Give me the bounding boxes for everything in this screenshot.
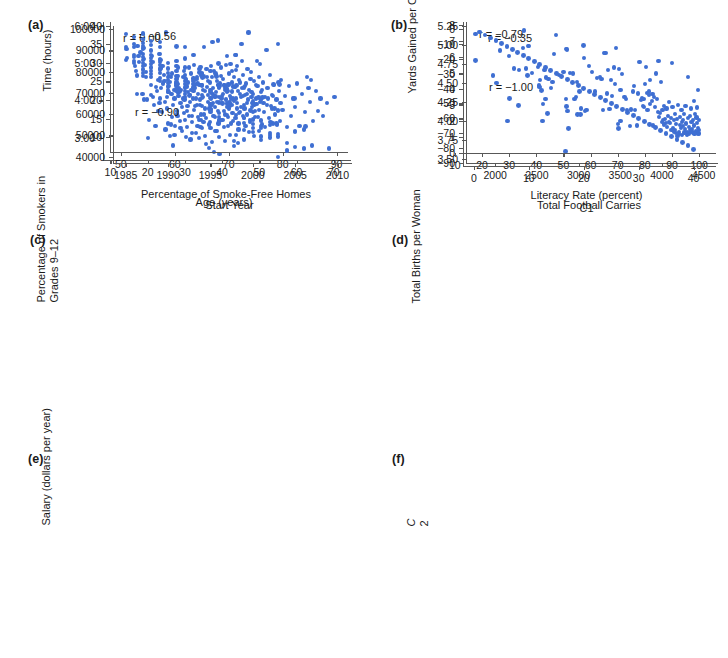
data-point [141,74,145,78]
y-tick-f-9 [459,163,463,164]
data-point [293,130,297,134]
data-point [149,75,153,79]
y-ticklabel-f-0: 0 [449,24,455,35]
y-ticklabel-e-0: 40000 [76,151,105,162]
data-point [526,56,531,61]
data-point [675,137,680,142]
x-ticklabel-f-2: 20 [578,173,590,184]
x-ticklabel-f-1: 10 [523,173,535,184]
data-point [488,36,493,41]
data-point [135,44,139,48]
data-point [680,140,685,145]
data-point [234,113,238,117]
x-tick-e-5 [338,163,339,167]
data-point [242,121,246,125]
data-point [174,89,178,93]
x-tick-a-0 [110,160,111,164]
data-point [548,68,553,73]
y-tick-f-3 [459,74,463,75]
data-point [174,59,178,63]
data-point [208,108,212,112]
scatterplot-figure: (a)102030405060703:004:005:006:00Age (ye… [0,0,728,658]
x-tick-f-3 [639,166,640,170]
x-tick-f-4 [694,166,695,170]
data-point [625,110,630,115]
data-point [175,76,179,80]
y-tick-e-1 [109,135,113,136]
y-ticklabel-e-5: 90000 [76,45,105,56]
panel-d: (d)102030405060708090100012345678Literac… [364,215,728,434]
data-point [532,59,537,64]
x-axis-title-f: C1 [579,202,593,215]
data-point [217,118,221,122]
data-point [268,135,272,139]
y-tick-f-2 [459,59,463,60]
data-point [166,61,170,65]
x-axis-title-e: Start Year [205,199,253,212]
data-point [521,53,526,58]
data-point [302,127,306,131]
x-ticklabel-e-3: 2000 [241,170,264,181]
data-point [276,109,280,113]
x-ticklabel-b-0: 2000 [483,170,506,181]
y-tick-f-6 [459,118,463,119]
y-ticklabel-f-6: −60 [437,113,455,124]
data-point [554,71,559,76]
y-axis-title-line: Yards Gained per Carry [406,93,419,94]
data-point [251,122,255,126]
panel-e: (e)1985199019952000200520104000050000600… [0,430,364,649]
y-axis-title-b: Yards Gained per Carry [406,93,419,94]
y-axis-line-e [113,26,114,164]
data-point [565,77,570,82]
x-tick-e-1 [168,163,169,167]
x-ticklabel-b-3: 3500 [609,170,632,181]
y-axis-title-c: Percentage of Smokers inGrades 9–12 [35,302,60,303]
y-tick-f-1 [459,44,463,45]
y-tick-c-5 [106,44,110,45]
data-point [167,74,171,78]
data-point [217,85,221,89]
data-point [603,98,608,103]
y-axis-title-d: Total Births per Woman [410,303,423,304]
data-point [510,47,515,52]
data-point [234,133,238,137]
data-point [570,80,575,85]
data-point [251,130,255,134]
data-point [158,52,162,56]
data-point [259,126,263,130]
y-axis-title-line: Grades 9–12 [48,302,61,303]
x-ticklabel-e-4: 2005 [283,170,306,181]
y-ticklabel-e-4: 80000 [76,66,105,77]
data-point [285,149,289,153]
data-point [124,47,128,51]
x-tick-f-0 [474,166,475,170]
x-ticklabel-f-3: 30 [633,173,645,184]
y-axis-title-f: C2 [405,526,430,527]
y-tick-f-4 [459,89,463,90]
y-ticklabel-e-1: 50000 [76,130,105,141]
data-point [174,69,178,73]
data-point [184,78,188,82]
data-point [598,95,603,100]
y-ticklabel-e-2: 60000 [76,109,105,120]
data-point [225,105,229,109]
y-tick-c-2 [106,100,110,101]
data-point [158,40,162,44]
y-ticklabel-f-1: −10 [437,39,455,50]
y-tick-c-4 [106,63,110,64]
x-tick-e-3 [253,163,254,167]
data-point [636,116,641,121]
data-point [159,65,163,69]
x-ticklabel-f-0: 0 [471,173,477,184]
data-point [494,38,499,43]
x-axis-title-d: Literacy Rate (percent) [531,189,643,202]
data-point [168,80,172,84]
y-tick-f-7 [459,133,463,134]
y-tick-e-6 [109,29,113,30]
data-point [293,145,297,149]
data-point [174,64,178,68]
data-point [251,117,255,121]
data-point [614,104,619,109]
y-axis-line-f [463,26,464,167]
data-point [166,90,170,94]
